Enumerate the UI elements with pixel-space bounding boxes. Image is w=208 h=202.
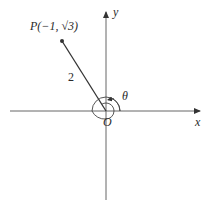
length-label: 2 — [68, 70, 74, 84]
angle-label: θ — [122, 89, 128, 103]
x-axis-label: x — [194, 115, 201, 129]
point-p — [60, 39, 64, 43]
origin-label: O — [103, 115, 112, 129]
angle-arc-arrowhead — [108, 99, 114, 100]
y-axis-label: y — [112, 5, 119, 19]
point-label: P(−1, √3) — [29, 19, 78, 33]
coordinate-diagram: P(−1, √3) 2 θ O x y — [0, 0, 208, 202]
